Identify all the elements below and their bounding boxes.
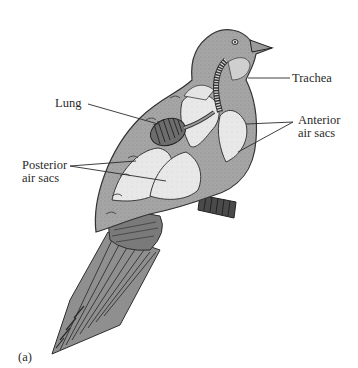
label-anterior-line2: air sacs xyxy=(298,127,335,140)
bird-respiratory-diagram: Trachea Lung Anterior air sacs Posterior… xyxy=(0,0,358,368)
label-posterior-line2: air sacs xyxy=(22,172,59,185)
beak xyxy=(250,40,272,52)
label-trachea: Trachea xyxy=(292,72,332,85)
panel-label: (a) xyxy=(18,351,32,364)
label-lung: Lung xyxy=(55,97,81,110)
